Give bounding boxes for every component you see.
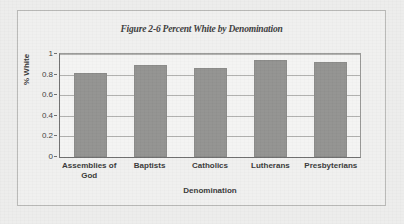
figure-frame: Figure 2-6 Percent White by Denomination… bbox=[17, 10, 386, 206]
y-tick-mark bbox=[54, 53, 57, 54]
bar-slot bbox=[300, 54, 360, 157]
x-tick-label: Presbyterians bbox=[301, 161, 361, 181]
bar-slot bbox=[60, 54, 120, 157]
y-tick-mark bbox=[54, 94, 57, 95]
x-tick-label: Lutherans bbox=[240, 161, 300, 181]
bar-slot bbox=[120, 54, 180, 157]
y-tick-mark bbox=[54, 115, 57, 116]
chart-title: Figure 2-6 Percent White by Denomination bbox=[18, 24, 385, 34]
bar bbox=[194, 68, 227, 157]
y-tick-mark bbox=[54, 156, 57, 157]
x-axis-tick-labels: Assemblies of GodBaptistsCatholicsLuther… bbox=[59, 161, 361, 181]
y-tick-label: 1 bbox=[49, 49, 53, 58]
y-tick-label: 0.4 bbox=[42, 110, 53, 119]
x-tick-label: Baptists bbox=[119, 161, 179, 181]
y-tick-mark bbox=[54, 135, 57, 136]
plot-area bbox=[59, 53, 361, 158]
figure-page: Figure 2-6 Percent White by Denomination… bbox=[0, 0, 404, 224]
bar-slot bbox=[240, 54, 300, 157]
y-tick-mark bbox=[54, 74, 57, 75]
x-tick-label: Assemblies of God bbox=[59, 161, 119, 181]
y-tick-label: 0.6 bbox=[42, 90, 53, 99]
bar bbox=[254, 60, 287, 157]
bar-series bbox=[60, 54, 360, 157]
x-axis-title: Denomination bbox=[59, 186, 361, 195]
y-axis-ticks: 00.20.40.60.81 bbox=[18, 47, 57, 162]
bar bbox=[74, 73, 107, 157]
y-tick-label: 0.8 bbox=[42, 69, 53, 78]
y-tick-label: 0 bbox=[49, 152, 53, 161]
bar-slot bbox=[180, 54, 240, 157]
bar bbox=[314, 62, 347, 157]
y-tick-label: 0.2 bbox=[42, 131, 53, 140]
bar bbox=[134, 65, 167, 157]
x-tick-label: Catholics bbox=[180, 161, 240, 181]
